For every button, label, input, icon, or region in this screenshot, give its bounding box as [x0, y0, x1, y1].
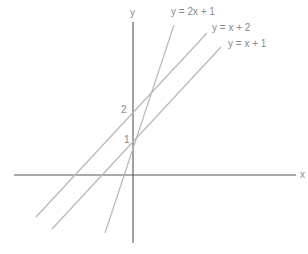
line-y-2x-plus-1	[105, 25, 174, 233]
y-tick-1: 1	[124, 134, 130, 145]
label-y-2x-plus-1: y = 2x + 1	[171, 6, 215, 17]
y-axis-label: y	[130, 7, 135, 18]
line-chart: x y 2 1 y = 2x + 1 y = x + 2 y = x + 1	[0, 0, 308, 254]
line-y-x-plus-2	[36, 33, 207, 217]
y-tick-2: 2	[121, 104, 127, 115]
line-y-x-plus-1	[52, 47, 221, 229]
x-axis-label: x	[300, 169, 305, 180]
label-y-x-plus-1: y = x + 1	[228, 38, 267, 49]
label-y-x-plus-2: y = x + 2	[212, 22, 251, 33]
